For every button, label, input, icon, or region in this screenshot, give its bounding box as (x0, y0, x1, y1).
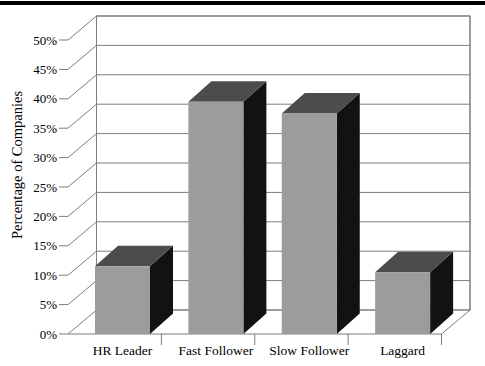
y-axis: 0%5%10%15%20%25%30%35%40%45%50% (33, 33, 68, 342)
y-tick-label: 20% (33, 209, 57, 224)
bar-side-face (337, 93, 360, 334)
y-tick-label: 15% (33, 238, 57, 253)
bar-front-face (282, 113, 337, 334)
gridline-diagonal (68, 75, 97, 99)
gridline-diagonal (68, 104, 97, 128)
bar-side-face (243, 81, 266, 334)
bar-laggard (375, 252, 453, 334)
gridline-diagonal (68, 222, 97, 246)
y-tick-label: 45% (33, 62, 57, 77)
y-tick-label: 10% (33, 268, 57, 283)
y-tick-label: 0% (40, 327, 58, 342)
gridline-diagonal (68, 281, 97, 305)
gridline-diagonal (68, 45, 97, 69)
gridline-diagonal (68, 251, 97, 275)
y-tick-label: 35% (33, 121, 57, 136)
y-tick-label: 30% (33, 150, 57, 165)
y-tick-label: 25% (33, 180, 57, 195)
bar-slow-follower (282, 93, 360, 334)
y-axis-title: Percentage of Companies (9, 91, 25, 240)
3d-bar-chart: 0%5%10%15%20%25%30%35%40%45%50%HR Leader… (0, 0, 485, 366)
gridline-diagonal (68, 310, 97, 334)
y-tick-label: 5% (40, 297, 58, 312)
bar-front-face (188, 102, 243, 334)
chart-canvas: 0%5%10%15%20%25%30%35%40%45%50%HR Leader… (0, 0, 485, 366)
bar-front-face (95, 266, 150, 334)
gridline-diagonal (68, 16, 97, 40)
gridline-diagonal (68, 163, 97, 187)
chart-page: 0%5%10%15%20%25%30%35%40%45%50%HR Leader… (0, 0, 485, 366)
bar-front-face (375, 272, 430, 334)
bar-fast-follower (188, 81, 266, 334)
x-category-label: HR Leader (93, 343, 153, 358)
x-axis-labels: HR LeaderFast FollowerSlow FollowerLagga… (93, 343, 426, 358)
x-category-label: Laggard (380, 343, 425, 358)
gridline-diagonal (68, 192, 97, 216)
bar-hr-leader (95, 246, 173, 334)
y-tick-label: 40% (33, 91, 57, 106)
gridline-diagonal (68, 134, 97, 158)
x-category-label: Fast Follower (179, 343, 254, 358)
x-category-label: Slow Follower (269, 343, 349, 358)
y-tick-label: 50% (33, 33, 57, 48)
